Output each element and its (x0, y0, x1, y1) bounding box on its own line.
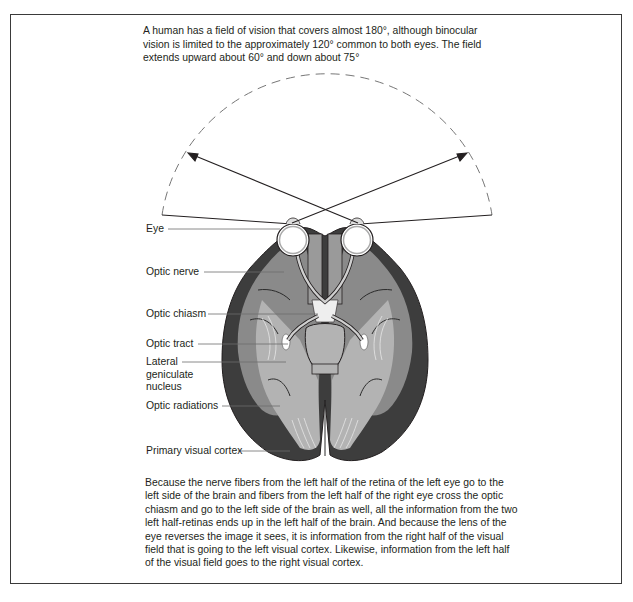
brain-illustration (222, 218, 428, 461)
label-optic-tract: Optic tract (146, 338, 193, 351)
label-lateral-geniculate-nucleus: Lateral geniculate nucleus (146, 356, 193, 394)
label-eye: Eye (146, 223, 164, 236)
sight-line-arrows (188, 153, 467, 223)
explanation-caption: Because the nerve fibers from the left h… (145, 476, 520, 570)
label-optic-chiasm: Optic chiasm (146, 308, 206, 321)
label-optic-radiations: Optic radiations (146, 400, 218, 413)
label-primary-visual-cortex: Primary visual cortex (146, 445, 242, 458)
label-optic-nerve: Optic nerve (146, 266, 199, 279)
visual-field-arc (162, 74, 492, 224)
